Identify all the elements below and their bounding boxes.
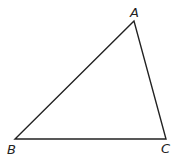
triangle-abc [15,21,166,139]
vertex-label-c: C [161,141,171,156]
vertex-label-b: B [7,142,16,157]
vertex-label-a: A [129,5,139,20]
triangle-diagram: A B C [0,0,181,163]
